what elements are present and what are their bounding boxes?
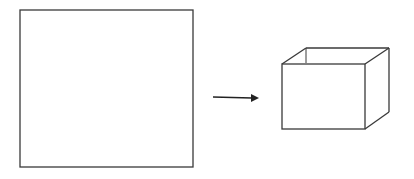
arrow-icon	[213, 94, 259, 102]
open-box	[282, 48, 389, 129]
diagram-canvas	[0, 0, 414, 179]
flat-square	[20, 10, 193, 167]
